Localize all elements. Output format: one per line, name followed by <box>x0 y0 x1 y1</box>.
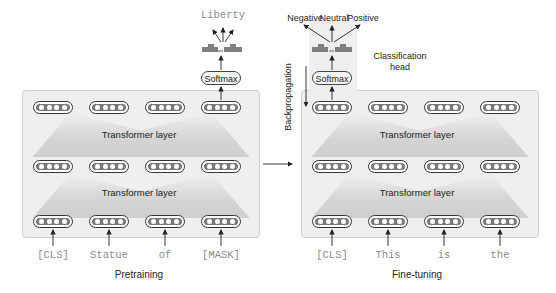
histogram-icon <box>312 44 352 52</box>
histogram-icon <box>202 44 242 52</box>
diagram-arrows <box>0 0 556 293</box>
